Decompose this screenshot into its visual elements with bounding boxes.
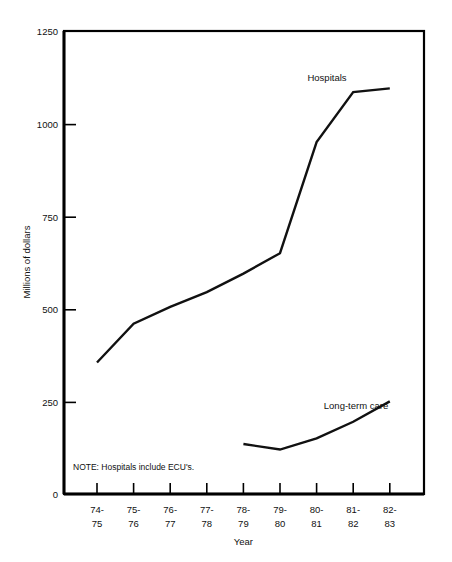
plot-frame: [64, 31, 424, 494]
x-tick-label-1-bottom: 76: [128, 518, 139, 529]
x-tick-label-3-top: 77-: [200, 504, 214, 515]
y-tick-label-1000: 1000: [37, 119, 58, 130]
x-tick-label-0-bottom: 75: [92, 518, 103, 529]
x-tick-label-5-top: 79-: [273, 504, 287, 515]
y-tick-label-750: 750: [42, 212, 58, 223]
x-tick-label-6-bottom: 81: [311, 518, 322, 529]
x-tick-label-8-bottom: 83: [385, 518, 396, 529]
y-tick-label-500: 500: [42, 304, 58, 315]
x-tick-label-2-bottom: 77: [165, 518, 176, 529]
x-tick-label-3-bottom: 78: [202, 518, 213, 529]
series-label-hospitals: Hospitals: [307, 72, 346, 83]
x-tick-label-2-top: 76-: [163, 504, 177, 515]
x-tick-label-1-top: 75-: [127, 504, 141, 515]
series-line-hospitals: [97, 88, 390, 362]
y-tick-label-1250: 1250: [37, 26, 58, 37]
x-tick-label-5-bottom: 80: [275, 518, 286, 529]
x-tick-labels: 74- 75 75- 76 76- 77 77- 78 78- 79 79- 8…: [90, 504, 397, 529]
x-tick-label-6-top: 80-: [310, 504, 324, 515]
y-tick-marks: [64, 125, 76, 403]
series-label-long-term-care: Long-term care: [324, 400, 388, 411]
y-tick-label-0: 0: [53, 489, 58, 500]
x-tick-label-7-top: 81-: [346, 504, 360, 515]
y-tick-label-250: 250: [42, 397, 58, 408]
y-axis-title: Millions of dollars: [21, 225, 32, 298]
line-chart: 1250 1000 750 500 250 0 Millions of doll…: [0, 0, 452, 562]
x-tick-label-0-top: 74-: [90, 504, 104, 515]
x-axis-title: Year: [234, 536, 253, 547]
x-tick-label-8-top: 82-: [383, 504, 397, 515]
x-tick-label-4-top: 78-: [237, 504, 251, 515]
x-tick-label-7-bottom: 82: [348, 518, 359, 529]
chart-figure: 1250 1000 750 500 250 0 Millions of doll…: [0, 0, 452, 562]
chart-note: NOTE: Hospitals include ECU's.: [73, 462, 194, 472]
x-tick-marks: [97, 483, 390, 494]
x-tick-label-4-bottom: 79: [238, 518, 249, 529]
